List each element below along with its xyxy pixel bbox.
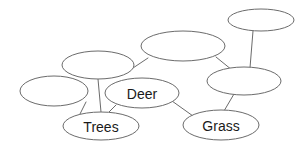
node-ellipse[interactable] <box>207 67 281 95</box>
nodes-layer: DeerTreesGrass <box>20 9 294 140</box>
graph-node-deer[interactable]: Deer <box>105 78 179 108</box>
node-ellipse[interactable] <box>62 51 134 79</box>
graph-node-unlabeled[interactable] <box>20 76 88 106</box>
graph-edge <box>250 31 253 68</box>
node-ellipse[interactable] <box>141 31 225 61</box>
node-label: Grass <box>202 118 239 134</box>
graph-edge <box>109 105 116 112</box>
graph-edge <box>80 102 86 114</box>
graph-edge <box>172 101 193 116</box>
node-ellipse[interactable] <box>20 76 88 106</box>
graph-edge <box>224 94 234 111</box>
graph-node-grass[interactable]: Grass <box>183 110 259 140</box>
node-label: Trees <box>83 119 118 135</box>
graph-node-trees[interactable]: Trees <box>63 112 139 140</box>
graph-node-unlabeled[interactable] <box>141 31 225 61</box>
graph-node-unlabeled[interactable] <box>228 9 294 31</box>
graph-node-unlabeled[interactable] <box>207 67 281 95</box>
graph-edge <box>133 58 148 68</box>
graph-edge <box>98 79 101 112</box>
node-link-diagram: DeerTreesGrass <box>0 0 307 150</box>
graph-node-unlabeled[interactable] <box>62 51 134 79</box>
graph-canvas: DeerTreesGrass <box>0 0 307 150</box>
node-label: Deer <box>127 86 158 102</box>
node-ellipse[interactable] <box>228 9 294 31</box>
